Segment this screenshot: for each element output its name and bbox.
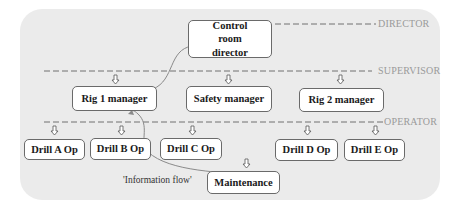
node-safety-manager: Safety manager — [186, 86, 272, 112]
down-arrow-icon-drill-e — [372, 126, 379, 135]
node-drill-c-op: Drill C Op — [160, 138, 222, 160]
node-drill-a-op: Drill A Op — [24, 139, 85, 160]
down-arrow-icon-drill-c — [189, 126, 196, 135]
node-drill-b-op: Drill B Op — [90, 138, 151, 160]
down-arrow-icon-maintenance — [243, 159, 250, 168]
node-label: Drill A Op — [31, 143, 78, 156]
node-label: Drill C Op — [167, 142, 215, 155]
down-arrow-icon-rig1 — [112, 75, 119, 84]
node-label: Rig 1 manager — [82, 92, 148, 105]
node-label: Control room director — [201, 19, 259, 58]
node-label: Drill D Op — [283, 143, 331, 156]
node-label: Drill E Op — [351, 143, 398, 156]
node-control-room-director: Control room director — [188, 20, 272, 58]
node-label: Drill B Op — [97, 142, 144, 155]
down-arrow-icon-rig2 — [337, 75, 344, 84]
information-flow-caption: 'Information flow' — [123, 175, 192, 185]
node-label: Maintenance — [214, 176, 272, 189]
level-label-supervisor: SUPERVISOR — [378, 65, 440, 76]
level-label-director: DIRECTOR — [378, 18, 429, 29]
node-label: Rig 2 manager — [309, 93, 375, 106]
node-drill-e-op: Drill E Op — [344, 139, 405, 161]
level-label-operator: OPERATOR — [384, 116, 437, 127]
down-arrow-icon-drill-d — [304, 126, 311, 135]
node-maintenance: Maintenance — [207, 171, 280, 194]
node-rig2-manager: Rig 2 manager — [299, 88, 384, 112]
down-arrow-icon-drill-b — [118, 126, 125, 135]
node-drill-d-op: Drill D Op — [275, 139, 338, 161]
node-label: Safety manager — [194, 92, 264, 105]
down-arrow-icon-drill-a — [51, 126, 58, 135]
node-rig1-manager: Rig 1 manager — [72, 86, 157, 111]
down-arrow-icon-safety — [225, 75, 232, 84]
